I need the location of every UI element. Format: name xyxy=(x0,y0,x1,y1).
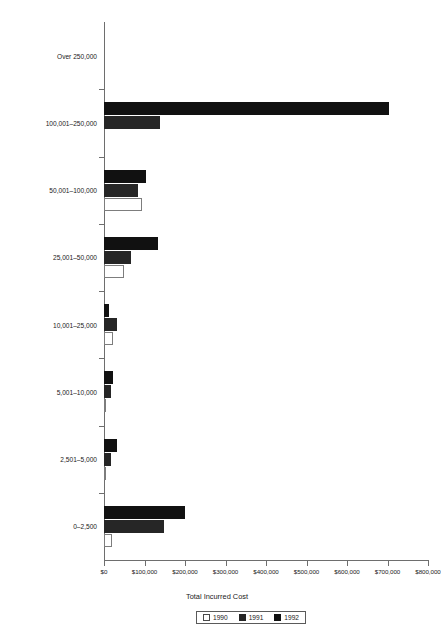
category-label: 10,001–25,000 xyxy=(0,321,97,328)
x-axis-tick xyxy=(428,560,429,566)
category-label: 100,001–250,000 xyxy=(0,119,97,126)
bar-1990-3 xyxy=(104,265,124,278)
legend-swatch-1990 xyxy=(203,614,210,621)
bar-1991-2 xyxy=(104,184,138,197)
category-label: 2,501–5,000 xyxy=(0,456,97,463)
category-label: 50,001–100,000 xyxy=(0,187,97,194)
x-axis-tick xyxy=(388,560,389,566)
x-axis-tick-label: $200,000 xyxy=(172,568,197,575)
legend-label-1990: 1990 xyxy=(213,614,228,621)
legend-item-1990: 1990 xyxy=(203,614,228,621)
x-axis-tick-label: $300,000 xyxy=(213,568,238,575)
legend-item-1991: 1991 xyxy=(239,614,264,621)
category-label: Over 250,000 xyxy=(0,52,97,59)
bar-1992-3 xyxy=(104,237,158,250)
bar-1992-1 xyxy=(104,102,389,115)
x-axis-tick xyxy=(104,560,105,566)
x-axis-tick xyxy=(145,560,146,566)
legend-swatch-1992 xyxy=(274,614,281,621)
y-axis-tick xyxy=(99,358,105,359)
x-axis-tick xyxy=(185,560,186,566)
y-axis-tick xyxy=(99,493,105,494)
bar-1990-5 xyxy=(104,399,106,412)
bar-1991-6 xyxy=(104,453,111,466)
y-axis-tick xyxy=(99,157,105,158)
bar-1991-3 xyxy=(104,251,131,264)
bar-1992-6 xyxy=(104,439,117,452)
category-label: 0–2,500 xyxy=(0,523,97,530)
y-axis-tick xyxy=(99,426,105,427)
x-axis-title: Total Incurred Cost xyxy=(0,592,434,601)
y-axis-tick xyxy=(99,89,105,90)
legend-swatch-1991 xyxy=(239,614,246,621)
bar-1992-7 xyxy=(104,506,185,519)
bar-1992-2 xyxy=(104,170,146,183)
chart-legend: 1990 1991 1992 xyxy=(196,611,306,624)
x-axis-tick-label: $500,000 xyxy=(294,568,319,575)
x-axis-tick-label: $0 xyxy=(101,568,108,575)
bar-1992-4 xyxy=(104,304,109,317)
y-axis-tick xyxy=(99,291,105,292)
bar-1991-4 xyxy=(104,318,117,331)
bar-1991-7 xyxy=(104,520,164,533)
x-axis-tick xyxy=(347,560,348,566)
bar-1990-7 xyxy=(104,534,112,547)
bar-1992-5 xyxy=(104,371,113,384)
x-axis-tick-label: $700,000 xyxy=(375,568,400,575)
bar-1990-6 xyxy=(104,467,106,480)
category-label: 25,001–50,000 xyxy=(0,254,97,261)
legend-label-1992: 1992 xyxy=(284,614,299,621)
bar-1990-4 xyxy=(104,332,113,345)
legend-label-1991: 1991 xyxy=(249,614,264,621)
x-axis-tick xyxy=(307,560,308,566)
x-axis-tick xyxy=(266,560,267,566)
bar-1990-2 xyxy=(104,198,142,211)
bar-1991-1 xyxy=(104,116,160,129)
x-axis-tick-label: $600,000 xyxy=(334,568,359,575)
x-axis-tick-label: $800,000 xyxy=(415,568,440,575)
category-label: 5,001–10,000 xyxy=(0,388,97,395)
x-axis-tick xyxy=(226,560,227,566)
x-axis-tick-label: $100,000 xyxy=(132,568,157,575)
x-axis-tick-label: $400,000 xyxy=(253,568,278,575)
plot-area xyxy=(104,22,428,560)
bar-1991-5 xyxy=(104,385,111,398)
y-axis-tick xyxy=(99,224,105,225)
legend-item-1992: 1992 xyxy=(274,614,299,621)
